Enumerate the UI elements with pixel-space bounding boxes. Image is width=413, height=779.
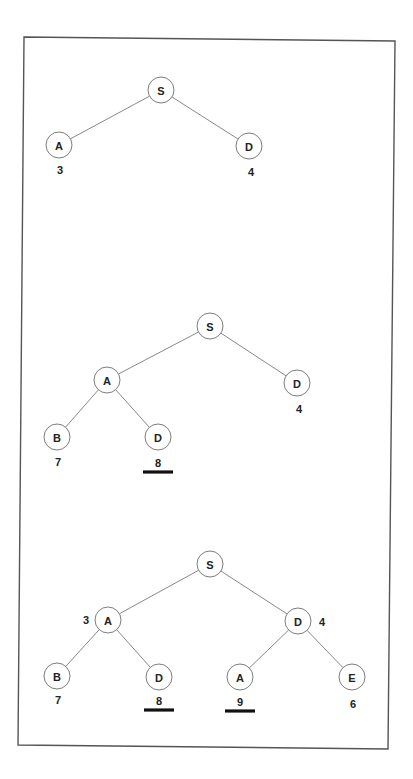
tree-node: D [146, 664, 172, 690]
tree-node: A [94, 367, 120, 393]
tree-3: SADBDAE347896 [44, 551, 365, 711]
tree-edge [117, 630, 151, 668]
search-tree-diagram: SAD34SADBD478SADBDAE347896 [0, 0, 413, 779]
node-label: D [154, 432, 162, 444]
node-label: D [294, 616, 302, 628]
tree-node: S [197, 313, 223, 339]
path-cost-label: 7 [55, 694, 61, 706]
path-cost-label: 8 [156, 695, 162, 707]
tree-node: B [44, 424, 70, 450]
path-cost-label: 6 [350, 698, 356, 710]
tree-edge [221, 333, 286, 376]
path-cost-label: 7 [55, 456, 61, 468]
path-cost-label: 8 [155, 457, 161, 469]
tree-edge [70, 96, 149, 139]
tree-node: A [95, 607, 121, 633]
trees-layer: SAD34SADBD478SADBDAE347896 [44, 77, 365, 711]
node-label: D [245, 141, 253, 153]
tree-edge [66, 390, 99, 427]
tree-node: S [148, 77, 174, 103]
node-label: A [104, 615, 112, 627]
tree-node: D [145, 424, 171, 450]
tree-edge [66, 630, 99, 667]
node-label: A [236, 672, 244, 684]
node-label: A [103, 375, 111, 387]
path-cost-label: 9 [237, 696, 243, 708]
tree-edge [119, 332, 199, 374]
tree-node: D [236, 133, 262, 159]
tree-edge [172, 97, 238, 139]
path-cost-label: 4 [296, 403, 303, 415]
tree-2: SADBD478 [44, 313, 310, 472]
node-label: S [206, 559, 213, 571]
tree-node: D [285, 608, 311, 634]
tree-node: B [44, 663, 70, 689]
diagram-frame [18, 37, 395, 749]
tree-node: A [227, 664, 253, 690]
node-label: S [157, 85, 164, 97]
tree-node: E [339, 664, 365, 690]
node-label: A [55, 140, 63, 152]
path-cost-label: 4 [319, 616, 326, 628]
tree-node: A [46, 132, 72, 158]
path-cost-label: 3 [57, 164, 63, 176]
node-label: B [53, 432, 61, 444]
path-cost-label: 4 [248, 166, 255, 178]
tree-edge [307, 630, 343, 667]
tree-1: SAD34 [46, 77, 262, 178]
tree-edge [119, 570, 198, 613]
node-label: D [293, 378, 301, 390]
node-label: D [155, 672, 163, 684]
path-cost-label: 3 [83, 614, 89, 626]
tree-node: D [284, 370, 310, 396]
tree-edge [116, 390, 150, 428]
tree-edge [249, 630, 288, 668]
tree-node: S [197, 551, 223, 577]
tree-edge [221, 571, 287, 614]
node-label: B [53, 671, 61, 683]
node-label: E [348, 672, 355, 684]
node-label: S [206, 321, 213, 333]
